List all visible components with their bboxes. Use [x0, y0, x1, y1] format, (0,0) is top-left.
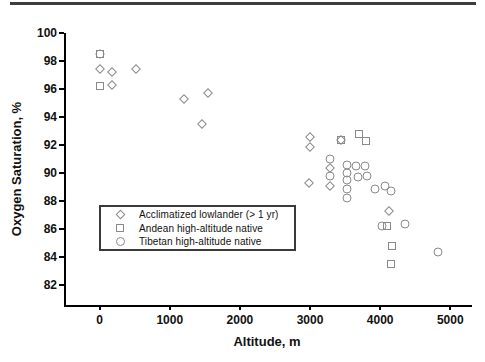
y-axis-tick-label: 86 [23, 222, 57, 236]
data-point-square [96, 82, 104, 90]
legend-item-andean: Andean high-altitude native [101, 222, 294, 235]
legend-item-tibetan: Tibetan high-altitude native [101, 235, 294, 248]
x-axis-title: Altitude, m [233, 334, 300, 349]
legend-label: Acclimatized lowlander (> 1 yr) [139, 209, 279, 220]
data-point-diamond [305, 142, 315, 152]
x-axis-tick-label: 4000 [367, 313, 394, 327]
y-axis-tick [59, 172, 64, 174]
scatter-plot-figure: Oxygen Saturation, % 0100020003000400050… [0, 0, 485, 362]
x-axis-tick-label: 5000 [437, 313, 464, 327]
data-point-circle [401, 219, 410, 228]
x-axis-tick-label: 1000 [156, 313, 183, 327]
data-point-circle [351, 162, 360, 171]
y-axis-tick-label: 100 [23, 26, 57, 40]
y-axis-tick-label: 88 [23, 194, 57, 208]
legend-marker-cell [101, 224, 139, 232]
x-axis-tick [99, 305, 101, 310]
y-axis-tick-label: 90 [23, 166, 57, 180]
data-point-circle [371, 184, 380, 193]
y-axis-tick [59, 200, 64, 202]
legend-label: Andean high-altitude native [139, 223, 263, 234]
y-axis-tick [59, 116, 64, 118]
x-axis-tick-label: 2000 [227, 313, 254, 327]
y-axis-tick [59, 144, 64, 146]
x-axis-tick [309, 305, 311, 310]
data-point-diamond [305, 132, 315, 142]
data-point-circle [343, 194, 352, 203]
data-point-diamond [197, 119, 207, 129]
y-axis-tick [59, 32, 64, 34]
data-point-circle [326, 155, 335, 164]
data-point-square [337, 136, 345, 144]
data-point-square [388, 242, 396, 250]
square-marker-icon [116, 224, 124, 232]
data-point-circle [377, 222, 386, 231]
data-point-circle [361, 162, 370, 171]
y-axis-tick-label: 96 [23, 82, 57, 96]
data-point-diamond [384, 206, 394, 216]
y-axis-tick-label: 94 [23, 110, 57, 124]
figure-top-rule [10, 2, 476, 5]
data-point-diamond [179, 94, 189, 104]
y-axis-tick-label: 82 [23, 278, 57, 292]
y-axis-tick-label: 84 [23, 250, 57, 264]
x-axis-tick-label: 0 [96, 313, 103, 327]
legend-item-lowlander: Acclimatized lowlander (> 1 yr) [101, 208, 294, 221]
circle-marker-icon [116, 237, 125, 246]
legend: Acclimatized lowlander (> 1 yr) Andean h… [99, 205, 296, 251]
data-point-circle [343, 184, 352, 193]
data-point-diamond [107, 80, 117, 90]
data-point-diamond [95, 65, 105, 75]
data-point-diamond [107, 67, 117, 77]
y-axis-tick-label: 98 [23, 54, 57, 68]
data-point-diamond [325, 181, 335, 191]
data-point-square [362, 137, 370, 145]
legend-marker-cell [101, 237, 139, 246]
legend-label: Tibetan high-altitude native [139, 236, 262, 247]
legend-marker-cell [101, 211, 139, 218]
data-point-circle [326, 172, 335, 181]
data-point-circle [387, 187, 396, 196]
data-point-diamond [304, 178, 314, 188]
x-axis-tick [449, 305, 451, 310]
x-axis-tick-label: 3000 [297, 313, 324, 327]
data-point-circle [362, 172, 371, 181]
y-axis-title: Oxygen Saturation, % [9, 102, 24, 236]
data-point-circle [95, 50, 104, 59]
y-axis-tick [59, 256, 64, 258]
diamond-marker-icon [115, 210, 125, 220]
x-axis-tick [169, 305, 171, 310]
x-axis-tick [239, 305, 241, 310]
x-axis-tick [379, 305, 381, 310]
data-point-diamond [203, 88, 213, 98]
y-axis-tick [59, 60, 64, 62]
y-axis-tick [59, 284, 64, 286]
data-point-diamond [131, 65, 141, 75]
data-point-square [387, 260, 395, 268]
data-point-circle [433, 247, 442, 256]
y-axis-tick [59, 228, 64, 230]
y-axis-tick-label: 92 [23, 138, 57, 152]
plot-area: 0100020003000400050008284868890929496981… [64, 33, 472, 307]
y-axis-tick [59, 88, 64, 90]
